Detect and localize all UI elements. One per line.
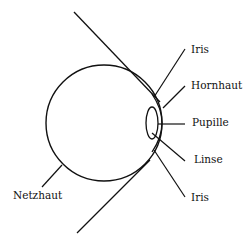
light-ray-bottom xyxy=(77,160,150,233)
label-iris-top: Iris xyxy=(191,44,209,55)
cornea-arc xyxy=(152,94,162,152)
label-pupille: Pupille xyxy=(192,117,229,128)
label-hornhaut: Hornhaut xyxy=(191,80,242,91)
label-netzhaut: Netzhaut xyxy=(13,190,62,201)
label-linse: Linse xyxy=(194,154,223,165)
leader-iris-top xyxy=(154,49,185,97)
lens-ellipse xyxy=(146,107,158,139)
eyeball-circle xyxy=(46,65,162,181)
label-iris-bottom: Iris xyxy=(191,192,209,203)
light-ray-top xyxy=(74,12,160,102)
leader-netzhaut xyxy=(42,165,62,187)
leader-hornhaut xyxy=(163,86,185,108)
